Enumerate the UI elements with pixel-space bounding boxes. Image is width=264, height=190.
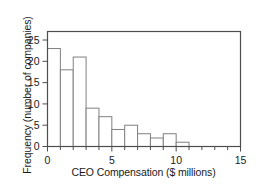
histogram-bar: [163, 134, 176, 147]
bars-group: [48, 49, 190, 147]
y-tick-label: 10: [28, 98, 40, 110]
y-tick-label: 15: [28, 76, 40, 88]
y-tick-label: 0: [34, 140, 40, 152]
histogram-bar: [99, 117, 112, 147]
x-tick-label: 0: [45, 154, 51, 166]
histogram-bar: [138, 134, 151, 147]
histogram-bar: [73, 57, 86, 146]
y-tick-label: 20: [28, 55, 40, 67]
histogram-bar: [125, 125, 138, 146]
histogram-bar: [112, 129, 125, 146]
histogram-figure: Frequency (number of companies) CEO Comp…: [0, 0, 264, 190]
x-tick-label: 10: [170, 154, 182, 166]
histogram-bar: [176, 142, 189, 146]
histogram-bar: [86, 108, 99, 146]
histogram-bar: [48, 49, 61, 147]
x-tick-label: 5: [109, 154, 115, 166]
plot-area: 0510150510152025: [0, 0, 264, 190]
histogram-bar: [60, 70, 73, 147]
y-tick-label: 25: [28, 34, 40, 46]
x-tick-label: 15: [235, 154, 247, 166]
histogram-bar: [150, 138, 163, 147]
y-tick-label: 5: [34, 119, 40, 131]
